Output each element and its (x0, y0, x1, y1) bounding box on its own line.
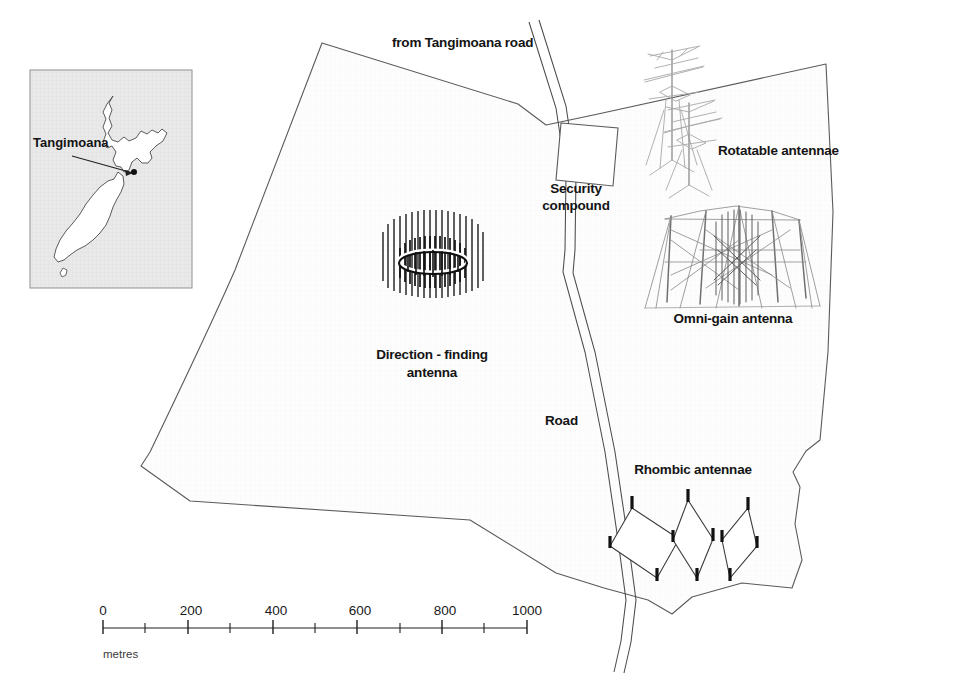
label-rotatable-antennae: Rotatable antennae (718, 143, 840, 158)
site-plan-map: from Tangimoana road Security compound R… (0, 0, 975, 698)
label-road: Road (545, 413, 578, 428)
scale-tick-200: 200 (180, 603, 203, 618)
inset-label-tangimoana: Tangimoana (33, 135, 109, 150)
security-compound (556, 123, 618, 186)
tangimoana-marker-dot (131, 169, 137, 175)
label-direction-finding-line1: Direction - finding (376, 347, 488, 362)
scale-bar: 0 200 400 600 800 1000 metres (99, 603, 542, 660)
boundary-outline (141, 43, 833, 614)
label-rhombic-antennae: Rhombic antennae (634, 462, 752, 477)
label-security-compound-line1: Security (550, 181, 602, 196)
label-omni-gain-antenna: Omni-gain antenna (674, 311, 794, 326)
new-zealand-locator-inset: Tangimoana (30, 70, 192, 288)
scale-tick-0: 0 (99, 603, 107, 618)
label-security-compound-line2: compound (542, 198, 609, 213)
property-boundary (141, 43, 833, 614)
scale-tick-1000: 1000 (512, 603, 542, 618)
scale-unit-label: metres (103, 648, 138, 660)
scale-tick-400: 400 (265, 603, 288, 618)
scale-tick-800: 800 (434, 603, 457, 618)
security-compound-outline (556, 123, 618, 186)
label-from-tangimoana-road: from Tangimoana road (392, 35, 533, 50)
label-direction-finding-line2: antenna (407, 365, 458, 380)
scale-tick-600: 600 (349, 603, 372, 618)
